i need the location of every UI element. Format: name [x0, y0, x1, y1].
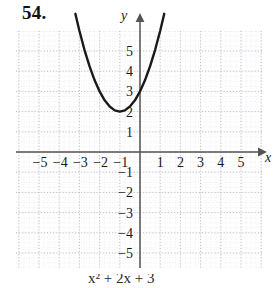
x-tick-label: −3 [73, 155, 88, 170]
x-tick-label: 5 [238, 155, 245, 170]
y-tick-label: −2 [118, 185, 133, 200]
y-axis-label: y [119, 8, 128, 23]
x-axis-label: x [264, 150, 272, 165]
y-tick-label: −4 [118, 226, 133, 241]
y-axis-arrow-icon [136, 13, 145, 22]
x-tick-label: 1 [157, 155, 164, 170]
x-tick-label: −5 [33, 155, 48, 170]
y-tick-label: 3 [126, 84, 133, 99]
y-tick-label: 5 [126, 44, 133, 59]
y-tick-label: −5 [118, 246, 133, 261]
graph-canvas: y x −5−4−3−2−112345 54321−1−2−3−4−5 [0, 0, 275, 288]
x-tick-label: −4 [53, 155, 68, 170]
x-tick-label: 4 [217, 155, 224, 170]
x-tick-label: 3 [197, 155, 204, 170]
coordinate-plane-graph: y x −5−4−3−2−112345 54321−1−2−3−4−5 [0, 0, 275, 288]
y-tick-label: −1 [118, 165, 133, 180]
y-tick-label: −3 [118, 206, 133, 221]
equation-caption-strip: x² + 2x + 3 [0, 274, 275, 288]
worksheet-graph-figure: 54. [0, 0, 275, 288]
x-tick-label: 2 [177, 155, 184, 170]
y-tick-label: 1 [126, 125, 133, 140]
equation-fragment: x² + 2x + 3 [88, 274, 154, 286]
x-tick-label: −2 [93, 155, 108, 170]
y-tick-label: 4 [126, 64, 133, 79]
equation-caption-text: x² + 2x + 3 [88, 274, 154, 287]
